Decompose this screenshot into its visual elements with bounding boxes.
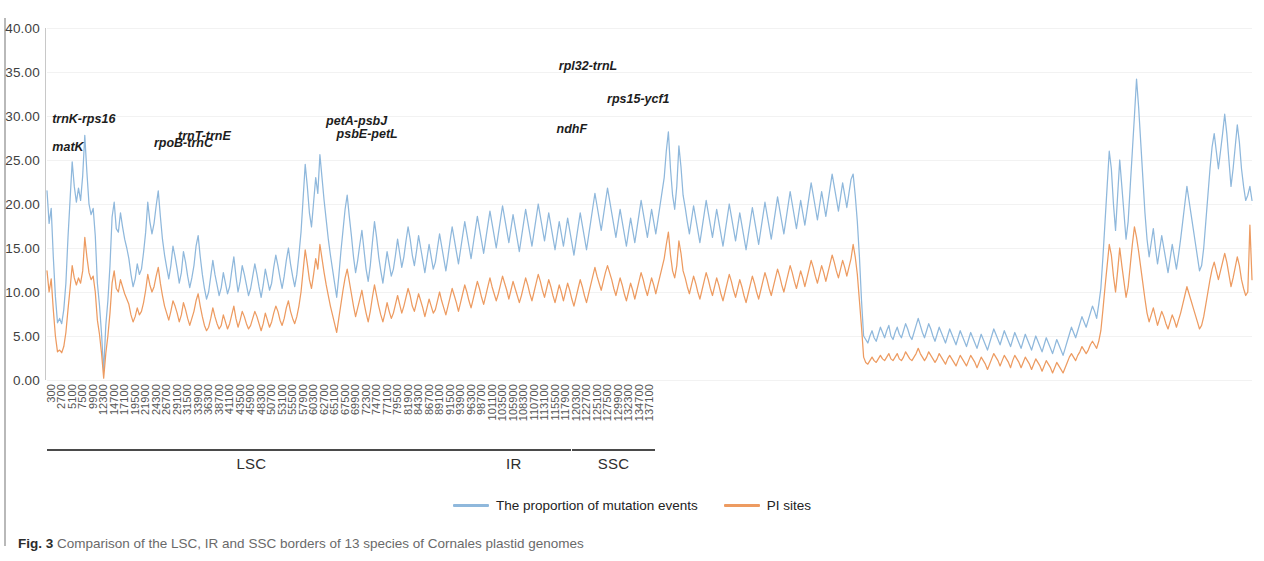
y-axis-tick-label: 10.00 — [5, 285, 40, 300]
legend-label-mutation: The proportion of mutation events — [496, 498, 698, 513]
x-axis-tick-label: 137100 — [643, 384, 655, 421]
y-axis-tick-label: 0.00 — [13, 373, 40, 388]
gene-annotation-label: ndhF — [557, 122, 588, 136]
y-axis-tick-label: 25.00 — [5, 153, 40, 168]
legend-swatch-pi — [724, 504, 760, 507]
figure-root: 0.005.0010.0015.0020.0025.0030.0035.0040… — [0, 0, 1264, 561]
gene-annotation-label: matK — [52, 140, 83, 154]
legend-swatch-mutation — [453, 504, 489, 507]
gene-annotation-label: rpl32-trnL — [559, 59, 617, 73]
figure-left-rule — [4, 18, 6, 546]
legend-item-mutation: The proportion of mutation events — [453, 498, 698, 513]
gene-annotation-label: trnK-rps16 — [52, 112, 115, 126]
gene-annotation-label: petA-psbJ — [326, 114, 387, 128]
y-axis-tick-label: 30.00 — [5, 109, 40, 124]
figure-caption-label: Fig. 3 — [18, 536, 53, 551]
chart-plot-area: 0.005.0010.0015.0020.0025.0030.0035.0040… — [47, 28, 1252, 380]
y-axis-tick-label: 15.00 — [5, 241, 40, 256]
genome-region-bars: LSCIRSSC — [47, 449, 1252, 487]
legend-item-pi: PI sites — [724, 498, 811, 513]
x-axis-tick-labels: 3002700510075009900123001470017100195002… — [47, 384, 1252, 446]
gene-annotation-label: rps15-ycf1 — [607, 92, 670, 106]
legend-label-pi: PI sites — [767, 498, 811, 513]
region-bar — [572, 449, 655, 451]
figure-caption-text: Comparison of the LSC, IR and SSC border… — [57, 536, 584, 551]
y-axis-tick-label: 20.00 — [5, 197, 40, 212]
region-label: SSC — [598, 455, 630, 472]
y-axis-line — [45, 28, 46, 380]
y-axis-tick-label: 35.00 — [5, 65, 40, 80]
region-bar — [456, 449, 571, 451]
region-label: IR — [506, 455, 522, 472]
figure-caption: Fig. 3 Comparison of the LSC, IR and SSC… — [18, 535, 1250, 553]
gene-annotation-label: trnT-trnE — [178, 129, 231, 143]
y-axis-tick-label: 5.00 — [13, 329, 40, 344]
region-label: LSC — [236, 455, 266, 472]
y-axis-tick-label: 40.00 — [5, 21, 40, 36]
chart-legend: The proportion of mutation eventsPI site… — [0, 498, 1264, 513]
gene-annotations-layer: matKtrnK-rps16rpoB-trnCtrnT-trnEpetA-psb… — [47, 28, 1252, 380]
gridline — [47, 380, 1252, 381]
gene-annotation-label: psbE-petL — [337, 127, 398, 141]
region-bar — [47, 449, 456, 451]
